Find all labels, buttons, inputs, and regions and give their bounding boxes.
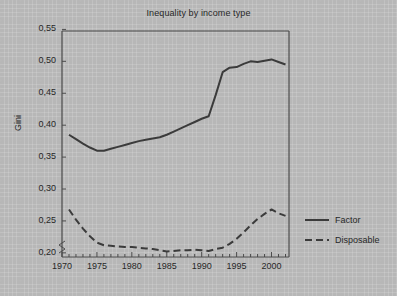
legend-label-factor: Factor	[335, 215, 361, 225]
chart-container: Inequality by income type Gini 0,200,250…	[0, 0, 397, 296]
data-series	[69, 59, 286, 251]
legend-line-solid-icon	[305, 215, 329, 225]
legend-item-factor[interactable]: Factor	[305, 210, 380, 230]
legend-label-disposable: Disposable	[335, 235, 380, 245]
legend-line-dashed-icon	[305, 235, 329, 245]
series-line-disposable	[69, 209, 286, 251]
series-line-factor	[69, 59, 286, 150]
chart-legend: Factor Disposable	[305, 210, 380, 250]
plot-svg	[0, 0, 397, 296]
y-axis-break-icon	[59, 241, 65, 253]
legend-item-disposable[interactable]: Disposable	[305, 230, 380, 250]
